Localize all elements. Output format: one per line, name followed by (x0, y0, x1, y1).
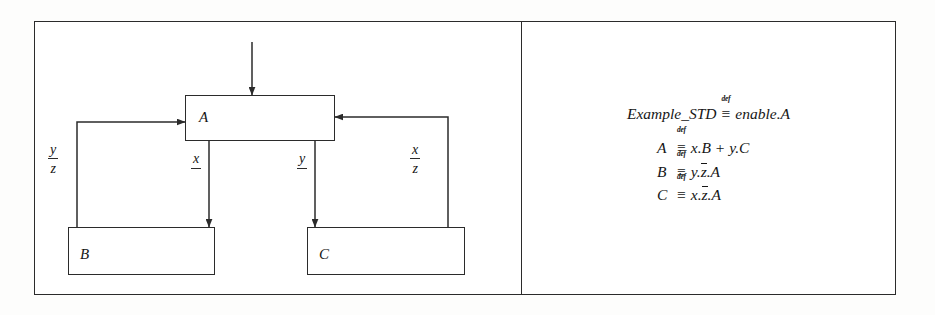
equation-lhs: A (657, 136, 672, 160)
equals-symbol: ≡ (677, 186, 686, 203)
equation-lhs: B (657, 160, 672, 184)
def-tag: def (677, 150, 686, 158)
equation-rhs: x.z.A (691, 183, 721, 207)
def-tag: def (721, 95, 730, 103)
rhs-part: .A (708, 186, 721, 203)
equation-lhs: C (657, 183, 672, 207)
equation-header-lhs: Example_STD (627, 105, 717, 123)
signal-label-y: y (297, 152, 307, 172)
node-label-a: A (199, 110, 208, 125)
process-definitions-panel: Example_STDdef≡enable.A A def ≡ x.B + y.… (521, 21, 896, 295)
equation-rhs: y.z.A (691, 160, 720, 184)
equation-stack: Example_STDdef≡enable.A A def ≡ x.B + y.… (521, 105, 896, 207)
equation-row: C def ≡ x.z.A (657, 183, 807, 207)
edge-c-to-a-feedback (335, 117, 448, 227)
signal-numerator: x (410, 143, 420, 159)
signal-label-x-over-z: x z (410, 143, 420, 176)
node-label-c: C (319, 247, 329, 262)
equation-rows: A def ≡ x.B + y.C B def ≡ (657, 136, 807, 207)
def-tag: def (677, 173, 686, 181)
rhs-part: x.B + y.C (691, 139, 750, 156)
signal-label-y-over-z: y z (48, 143, 58, 176)
equation-header: Example_STDdef≡enable.A (521, 105, 896, 123)
equation-header-rhs: enable.A (735, 105, 790, 123)
signal-numerator: y (297, 152, 307, 169)
equation-rhs: x.B + y.C (691, 136, 750, 160)
rhs-part: .A (707, 163, 720, 180)
rhs-part: y. (691, 163, 701, 180)
def-tag: def (677, 126, 686, 134)
signal-denominator: z (410, 159, 420, 176)
equals-symbol: ≡ (722, 105, 731, 122)
edge-b-to-a-feedback (77, 122, 185, 227)
def-equals-operator: def ≡ (677, 183, 686, 207)
signal-numerator: y (48, 143, 58, 159)
signal-denominator (191, 169, 201, 172)
signal-denominator (297, 169, 307, 172)
figure-canvas: A B C y z x y x z Example_STDdef≡enable.… (0, 0, 935, 315)
node-label-b: B (80, 247, 89, 262)
rhs-part: x. (691, 186, 702, 203)
signal-label-x: x (191, 152, 201, 172)
block-diagram-panel: A B C y z x y x z (34, 21, 521, 295)
signal-denominator: z (48, 159, 58, 176)
def-equals-operator: def≡ (722, 105, 731, 123)
signal-numerator: x (191, 152, 201, 169)
node-box-c[interactable] (307, 227, 465, 275)
node-box-b[interactable] (68, 227, 215, 275)
